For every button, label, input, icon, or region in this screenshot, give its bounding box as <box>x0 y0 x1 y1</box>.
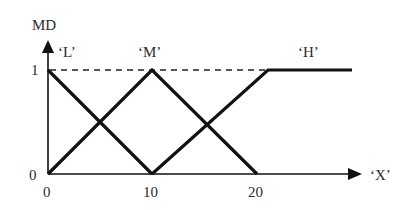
x-axis-arrow-icon <box>348 168 362 180</box>
x-tick-0: 0 <box>43 184 51 200</box>
y-axis-label: MD <box>32 17 56 33</box>
membership-function-diagram: MD ‘L’ ‘M’ ‘H’ 1 0 0 10 20 ‘X’ <box>0 0 412 210</box>
x-tick-20: 20 <box>248 184 263 200</box>
x-tick-10: 10 <box>143 184 158 200</box>
series-M <box>48 70 257 174</box>
series-label-L: ‘L’ <box>58 44 76 60</box>
y-tick-0: 0 <box>29 167 37 183</box>
y-tick-1: 1 <box>31 62 39 78</box>
series-label-M: ‘M’ <box>138 44 161 60</box>
y-axis-arrow-icon <box>42 40 54 53</box>
x-axis-label: ‘X’ <box>370 167 391 183</box>
series-label-H: ‘H’ <box>298 44 319 60</box>
series-H <box>152 70 352 174</box>
